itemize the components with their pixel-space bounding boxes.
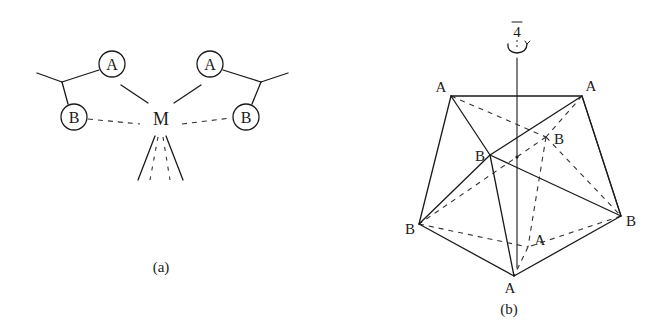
svg-text:A: A (106, 56, 118, 73)
vertex-right-label: B (626, 213, 636, 229)
vertex-mid-back-label: B (554, 131, 564, 147)
right-a-m-bond (174, 85, 201, 103)
right-b-m-interaction (182, 118, 231, 124)
right-backbone-stub (261, 73, 288, 82)
svg-text:A: A (204, 56, 216, 73)
left-b-m-interaction (88, 119, 140, 124)
fan-right-bond (166, 136, 183, 180)
vertex-inner-back-label: A (535, 232, 546, 248)
left-atom-a: A (99, 51, 125, 77)
fan-left-dashed (150, 137, 158, 180)
caption-b: (b) (500, 301, 518, 318)
svg-text:B: B (241, 109, 252, 126)
right-atom-a: A (197, 51, 223, 77)
vertex-bottom-label: A (505, 280, 516, 296)
diagram-b: 4 (405, 22, 636, 318)
diagram-a: A B A B M (a) (37, 51, 288, 276)
left-atom-b: B (61, 104, 87, 130)
axis-symbol: 4 (513, 24, 521, 40)
vertex-left-label: B (405, 221, 415, 237)
svg-text:B: B (69, 109, 80, 126)
vertex-top-left-label: A (436, 79, 447, 95)
metal-label: M (153, 109, 169, 129)
right-backbone-to-a (223, 70, 261, 82)
left-backbone-to-b (62, 82, 68, 104)
left-backbone-stub (37, 73, 62, 82)
caption-a: (a) (153, 259, 170, 276)
fan-left-bond (138, 136, 155, 180)
visible-edges (419, 96, 621, 276)
right-backbone-to-b (252, 82, 261, 104)
left-backbone-to-a (62, 70, 99, 82)
right-atom-b: B (233, 104, 259, 130)
left-a-m-bond (121, 85, 148, 103)
vertex-mid-front-label: B (475, 148, 485, 164)
figure-canvas: A B A B M (a) 4 (0, 0, 672, 331)
vertex-top-right-label: A (586, 78, 597, 94)
